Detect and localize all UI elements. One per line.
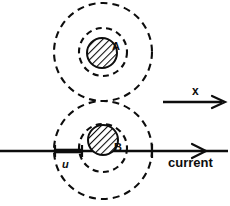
- upper-particle-group: A: [54, 3, 152, 101]
- current-label: current: [168, 155, 213, 170]
- diagram-canvas: A B u current x: [0, 0, 230, 206]
- physics-diagram-figure: A B u current x: [0, 0, 230, 206]
- particle-b-label: B: [114, 141, 122, 153]
- particle-a-label: A: [112, 40, 120, 52]
- x-direction-arrow: x: [163, 84, 225, 108]
- x-axis-label: x: [192, 84, 199, 98]
- displacement-label-u: u: [62, 158, 69, 170]
